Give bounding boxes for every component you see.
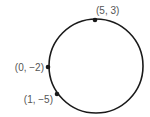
point-label: (5, 3) xyxy=(96,5,119,16)
circle xyxy=(49,19,143,113)
point-marker xyxy=(93,18,98,23)
point-label: (0, −2) xyxy=(15,62,44,73)
point-marker xyxy=(46,65,51,70)
point-marker xyxy=(55,92,60,97)
point-label: (1, −5) xyxy=(24,94,53,105)
circle-diagram: (5, 3)(0, −2)(1, −5) xyxy=(0,0,150,117)
